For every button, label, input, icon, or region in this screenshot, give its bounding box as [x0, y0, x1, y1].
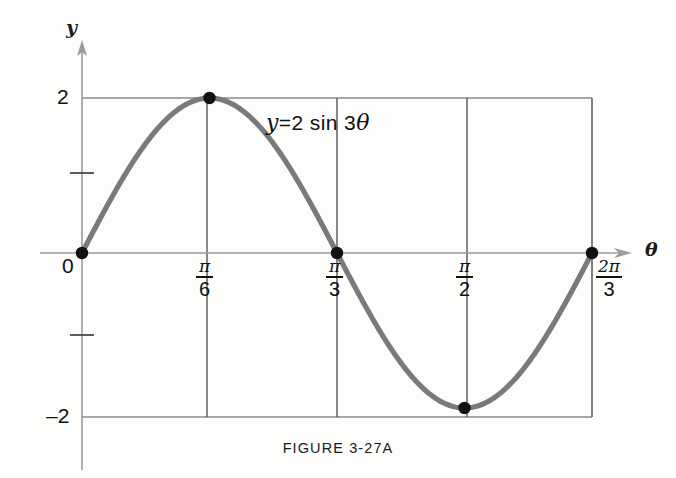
- x-tick-numerator: π: [457, 258, 472, 276]
- y-tick-label-2: 2: [57, 86, 69, 107]
- y-axis-label: y: [66, 18, 77, 37]
- x-tick-label-2pi-over-3: 2π 3: [596, 258, 622, 299]
- equation-function: sin 3: [310, 111, 356, 134]
- theta-axis-label: θ: [645, 240, 658, 259]
- equation-operator: =2: [279, 111, 304, 134]
- figure-caption: FIGURE 3-27A: [0, 440, 676, 456]
- curve-point-marker: [458, 402, 470, 414]
- plot-canvas: [0, 0, 676, 478]
- origin-label: 0: [62, 255, 74, 276]
- curve-point-marker: [76, 247, 88, 259]
- x-tick-denominator: 3: [603, 278, 614, 299]
- x-tick-label-pi-over-6: π 6: [196, 258, 213, 299]
- x-tick-numerator: 2π: [596, 258, 622, 276]
- equation-annotation: y=2 sin 3θ: [266, 112, 370, 134]
- x-tick-denominator: 6: [199, 278, 210, 299]
- y-tick-label-minus-2: –2: [46, 405, 69, 426]
- x-tick-numerator: π: [327, 258, 342, 276]
- x-tick-numerator: π: [197, 258, 212, 276]
- equation-lhs: y: [266, 110, 279, 135]
- x-tick-label-pi-over-2: π 2: [456, 258, 473, 299]
- equation-variable: θ: [356, 110, 370, 135]
- x-tick-label-pi-over-3: π 3: [326, 258, 343, 299]
- x-tick-denominator: 2: [459, 278, 470, 299]
- curve-point-marker: [203, 92, 215, 104]
- x-tick-denominator: 3: [329, 278, 340, 299]
- figure-container: y θ 2 –2 0 y=2 sin 3θ π 6 π 3 π 2 2π 3 F…: [0, 0, 676, 478]
